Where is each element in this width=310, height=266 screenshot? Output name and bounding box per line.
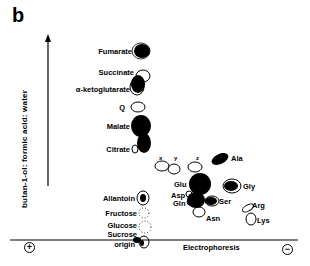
label-origin: origin	[114, 240, 135, 249]
label-gln: Gln	[173, 199, 186, 208]
label-lys: Lys	[257, 216, 270, 225]
label-glucose: Glucose	[107, 221, 137, 230]
label-sucrose: Sucrose	[107, 230, 137, 239]
label-succinate: Succinate	[99, 68, 134, 77]
label-ser: Ser	[219, 197, 231, 206]
label-malate: Malate	[107, 122, 130, 131]
anode-plus-sign: +	[24, 242, 35, 253]
label-z: z	[196, 155, 199, 161]
chromatogram-drawing	[0, 0, 310, 266]
label-citrate: Citrate	[106, 145, 130, 154]
label-x: x	[159, 155, 162, 161]
cathode-minus-sign: −	[282, 244, 293, 255]
label-glu: Glu	[174, 180, 187, 189]
label-asn: Asn	[206, 214, 220, 223]
label-fructose: Fructose	[105, 209, 137, 218]
label-ala: Ala	[231, 154, 243, 163]
label-allantoin: Allantoin	[103, 194, 135, 203]
label-fumarate: Fumarate	[98, 47, 132, 56]
label-y: y	[174, 155, 177, 161]
label-arg: Arg	[252, 201, 265, 210]
label-q: Q	[119, 103, 125, 112]
label-gly: Gly	[243, 182, 255, 191]
label-ketoglutarate: α-ketoglutarate	[76, 85, 130, 94]
x-axis-label: Electrophoresis	[183, 243, 240, 252]
